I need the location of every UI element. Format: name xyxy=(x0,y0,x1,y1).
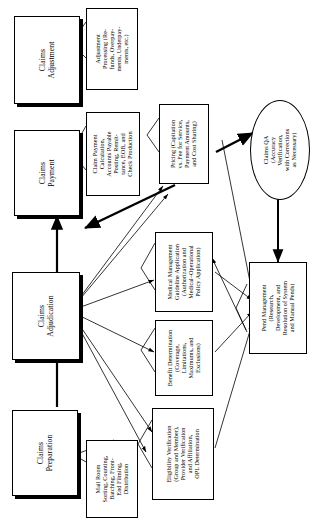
arrow-pend-management-to-medical-management xyxy=(212,258,246,330)
annotation-box-medical-management[interactable]: Medical Management Guideline Application… xyxy=(155,232,213,312)
annotation-medical-management-label: Medical Management Guideline Application… xyxy=(167,244,202,300)
arrow-medical-management-to-pend-management xyxy=(215,272,252,300)
arrow-adjudication-to-medical-management xyxy=(70,280,154,311)
arrow-adjudication-to-eligibility-verification-b xyxy=(70,311,146,452)
arrow-adjudication-to-benefit-determination xyxy=(70,311,154,352)
arrow-pricing-to-pend-management xyxy=(222,140,252,292)
oval-node-claims-qa[interactable]: Claims QA (Accuracy Verification, with C… xyxy=(250,100,310,200)
annotation-box-pricing-capitation[interactable]: Pricing (Capitation vs. Fee for Service,… xyxy=(159,104,209,184)
leader-pend-management xyxy=(236,284,247,332)
process-box-claims-adjudication[interactable]: Claims Adjudication xyxy=(12,272,80,360)
oval-node-claims-qa-label: Claims QA (Accuracy Verification, with C… xyxy=(263,129,298,171)
process-box-claims-adjudication-label: Claims Adjudication xyxy=(38,295,55,336)
annotation-adjustment-processing-label: Adjustment Processing (Re- funds, Overpa… xyxy=(95,26,130,71)
annotation-box-mail-room[interactable]: Mail Room Sorting, Counting, Batching, F… xyxy=(86,440,138,518)
leader-pricing xyxy=(147,118,159,152)
leader-medical-management xyxy=(141,243,155,290)
annotation-box-adjustment-processing[interactable]: Adjustment Processing (Re- funds, Overpa… xyxy=(86,8,138,90)
annotation-box-benefit-determination[interactable]: Benefit Determination (Coverage, Limitat… xyxy=(155,320,213,396)
process-box-claims-payment-label: Claims Payment xyxy=(39,159,56,187)
process-box-claims-adjustment-label: Claims Adjustment xyxy=(39,42,56,79)
diagram-canvas: Claims Adjustment Claims Payment Claims … xyxy=(0,0,324,524)
annotation-box-claim-payment-calculation[interactable]: Claim Payment Calculation, Accounts Paya… xyxy=(86,112,140,196)
arrow-benefit-determination-to-pend-management xyxy=(215,312,252,352)
arrow-adjudication-to-pricing-b xyxy=(70,194,168,311)
annotation-box-eligibility-verification[interactable]: Eligibility Verification (Group and Memb… xyxy=(152,408,214,500)
arrow-adjudication-to-eligibility-verification xyxy=(70,311,152,432)
process-box-claims-preparation-label: Claims Preparation xyxy=(37,435,54,472)
arrow-payment-to-claims-qa xyxy=(216,133,253,152)
process-box-claims-preparation[interactable]: Claims Preparation xyxy=(12,410,78,496)
pend-management-fan xyxy=(212,140,252,448)
annotation-pricing-capitation-label: Pricing (Capitation vs. Fee for Service,… xyxy=(170,120,198,169)
leader-benefit-determination xyxy=(141,328,155,372)
arrow-adjudication-to-pricing-a xyxy=(70,186,163,311)
leader-eligibility-verification xyxy=(138,420,152,468)
annotation-eligibility-verification-label: Eligibility Verification (Group and Memb… xyxy=(166,426,201,483)
annotation-claim-payment-calculation-label: Claim Payment Calculation, Accounts Paya… xyxy=(92,131,134,176)
annotation-benefit-determination-label: Benefit Determination (Coverage, Limitat… xyxy=(167,330,202,387)
process-box-claims-payment[interactable]: Claims Payment xyxy=(14,130,80,216)
arrow-eligibility-to-pend-management xyxy=(215,324,252,448)
annotation-box-pend-management[interactable]: Pend Management (Research, Development, … xyxy=(249,262,307,354)
annotation-mail-room-label: Mail Room Sorting, Counting, Batching, F… xyxy=(95,456,130,503)
process-box-claims-adjustment[interactable]: Claims Adjustment xyxy=(14,16,80,104)
annotation-pend-management-label: Pend Management (Research, Development, … xyxy=(261,281,296,335)
